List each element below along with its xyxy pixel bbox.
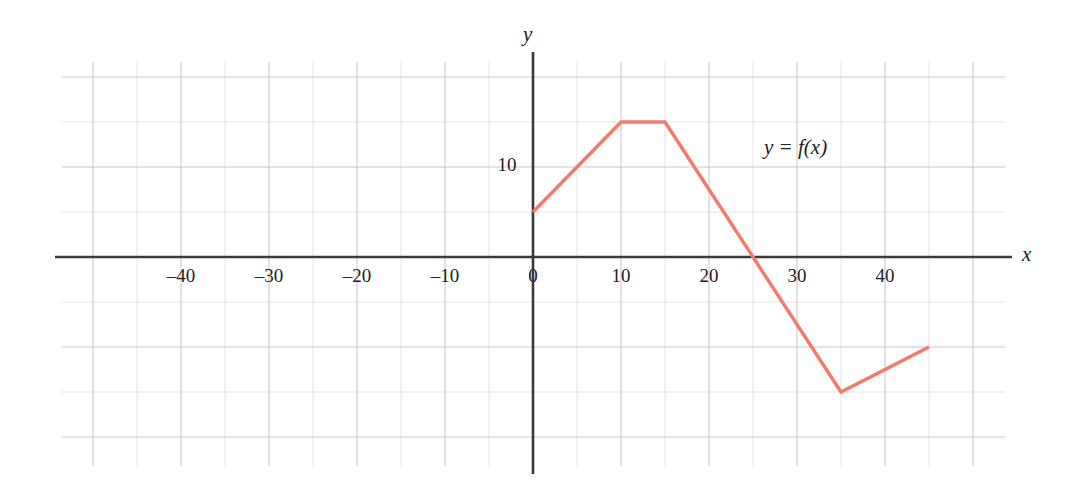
x-tick-label: 10 xyxy=(612,265,631,287)
x-tick-label: 0 xyxy=(528,265,538,287)
x-tick-label: –20 xyxy=(343,265,372,287)
y-axis-label: y xyxy=(523,22,532,47)
x-tick-label: –40 xyxy=(167,265,196,287)
x-tick-label: 40 xyxy=(876,265,895,287)
x-axis-label: x xyxy=(1022,242,1031,267)
x-tick-label: –10 xyxy=(431,265,460,287)
y-tick-label: 10 xyxy=(498,154,517,176)
chart-figure: –40–30–20–1001020304010xyy = f(x) xyxy=(0,0,1069,482)
x-tick-label: –30 xyxy=(255,265,284,287)
x-tick-label: 30 xyxy=(788,265,807,287)
x-tick-label: 20 xyxy=(700,265,719,287)
chart-plot-area xyxy=(0,0,1069,482)
curve-annotation: y = f(x) xyxy=(764,135,827,160)
